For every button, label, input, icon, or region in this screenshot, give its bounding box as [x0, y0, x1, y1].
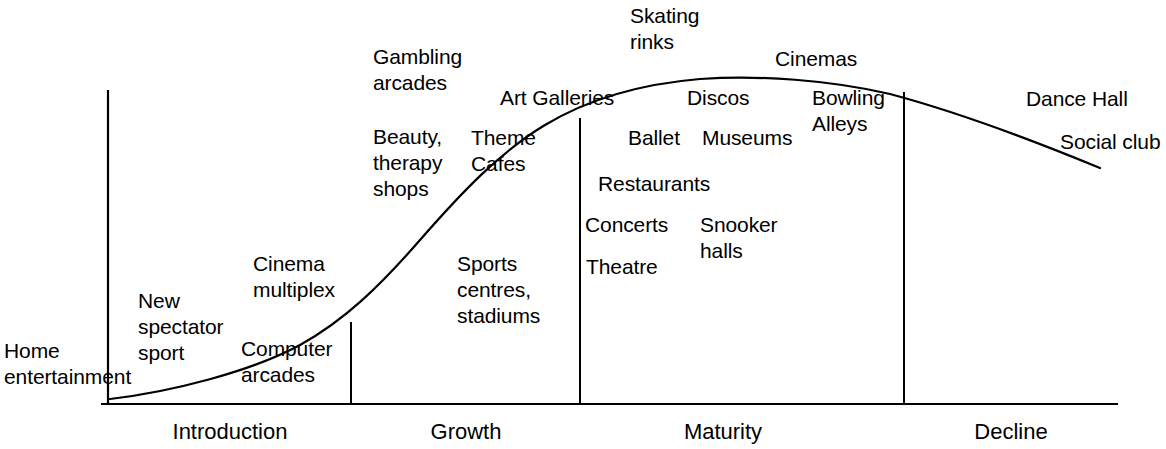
product-label-dance-hall: Dance Hall — [1026, 86, 1128, 112]
product-label-cinemas: Cinemas — [775, 46, 857, 72]
product-label-concerts: Concerts — [585, 212, 668, 238]
product-label-gambling-arcades: Gambling arcades — [373, 44, 462, 96]
product-label-new-spectator-sport: New spectator sport — [138, 288, 223, 366]
product-label-computer-arcades: Computer arcades — [241, 336, 332, 388]
product-label-discos: Discos — [687, 85, 749, 111]
lifecycle-curve-svg — [0, 0, 1166, 449]
product-label-home-entertainment: Home entertainment — [4, 338, 131, 390]
phase-label-introduction: Introduction — [140, 419, 320, 445]
product-label-theme-cafes: Theme Cafes — [471, 125, 536, 177]
product-label-bowling-alleys: Bowling Alleys — [812, 85, 885, 137]
product-label-restaurants: Restaurants — [598, 171, 710, 197]
product-label-snooker-halls: Snooker halls — [700, 212, 778, 264]
product-label-art-galleries: Art Galleries — [500, 85, 614, 111]
phase-label-growth: Growth — [376, 419, 556, 445]
lifecycle-diagram: Home entertainmentNew spectator sportCin… — [0, 0, 1166, 449]
product-label-ballet: Ballet — [628, 125, 680, 151]
phase-label-maturity: Maturity — [633, 419, 813, 445]
product-label-museums: Museums — [702, 125, 792, 151]
product-label-social-club: Social club — [1060, 129, 1160, 155]
product-label-skating-rinks: Skating rinks — [630, 3, 699, 55]
product-label-sports-centres-stadiums: Sports centres, stadiums — [457, 251, 540, 329]
phase-label-decline: Decline — [921, 419, 1101, 445]
product-label-theatre: Theatre — [586, 254, 658, 280]
product-label-cinema-multiplex: Cinema multiplex — [253, 251, 335, 303]
product-label-beauty-therapy-shops: Beauty, therapy shops — [373, 124, 442, 202]
